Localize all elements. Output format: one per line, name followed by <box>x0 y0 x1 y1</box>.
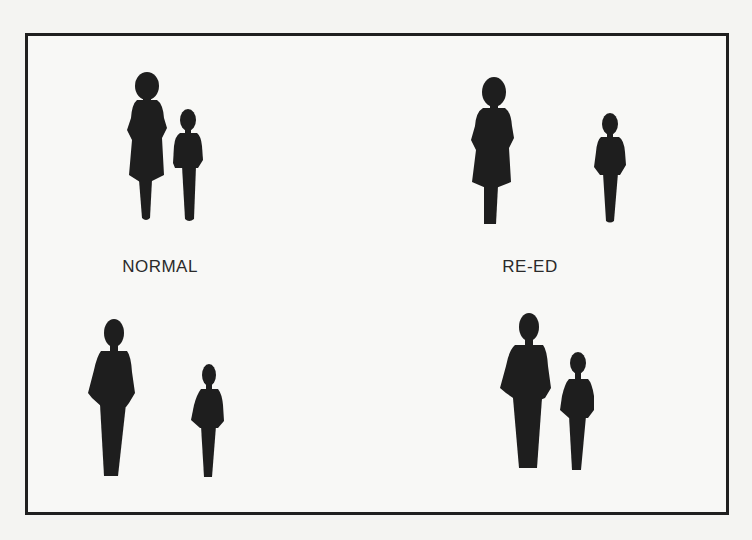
head-icon <box>180 109 196 131</box>
legs-icon <box>513 398 542 468</box>
body-icon <box>594 137 626 175</box>
figure-stage: NORMAL RE-ED <box>0 0 752 540</box>
legs-icon <box>100 404 126 476</box>
normal-father-figure <box>88 319 135 476</box>
reed-mother-figure <box>471 77 514 224</box>
dress-body-icon <box>127 100 167 182</box>
legs-icon <box>201 426 216 477</box>
head-icon <box>602 113 618 135</box>
legs-icon <box>484 186 498 224</box>
body-icon <box>191 389 224 428</box>
silhouette-figures <box>0 0 752 540</box>
head-icon <box>570 352 586 374</box>
body-icon <box>500 345 551 400</box>
body-icon <box>560 379 594 418</box>
reed-label: RE-ED <box>502 257 557 277</box>
reed-father-figure <box>500 313 551 468</box>
legs-icon <box>139 180 152 220</box>
normal-child-2-figure <box>191 364 224 477</box>
normal-child-figure <box>173 109 203 221</box>
head-icon <box>482 77 506 107</box>
normal-label: NORMAL <box>122 257 198 277</box>
head-icon <box>104 319 124 347</box>
head-icon <box>135 72 159 100</box>
dress-body-icon <box>471 108 514 188</box>
head-icon <box>202 364 216 386</box>
reed-child-2-figure <box>560 352 594 470</box>
legs-icon <box>569 416 586 470</box>
reed-child-figure <box>594 113 626 223</box>
head-icon <box>519 313 539 341</box>
legs-icon <box>603 173 618 223</box>
body-icon <box>88 351 135 407</box>
legs-icon <box>182 166 196 221</box>
body-icon <box>173 133 203 168</box>
normal-mother-figure <box>127 72 167 220</box>
